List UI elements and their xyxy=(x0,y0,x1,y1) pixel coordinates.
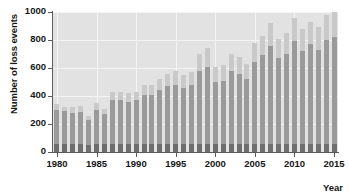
bar-segment-middle xyxy=(300,51,305,143)
bar xyxy=(165,74,170,152)
bar-segment-middle xyxy=(332,37,337,143)
x-tick-label: 2000 xyxy=(195,158,235,169)
y-tick-mark xyxy=(48,12,52,13)
bar xyxy=(197,54,202,152)
bar-segment-middle xyxy=(78,112,83,144)
bar-segment-upper xyxy=(244,64,249,79)
bar-segment-base xyxy=(70,144,75,152)
x-tick-label: 2015 xyxy=(314,158,349,169)
y-tick-label: 800 xyxy=(8,33,46,44)
y-tick-label: 600 xyxy=(8,61,46,72)
bar-segment-upper xyxy=(197,54,202,71)
bar-segment-base xyxy=(110,144,115,152)
bar-segment-base xyxy=(324,144,329,152)
bar-segment-base xyxy=(118,144,123,152)
bar xyxy=(78,106,83,152)
y-tick-mark xyxy=(48,68,52,69)
bar-series xyxy=(53,12,338,152)
y-axis-line xyxy=(52,11,53,153)
bar xyxy=(70,107,75,152)
x-tick-mark xyxy=(334,153,335,157)
bar-segment-middle xyxy=(149,95,154,144)
bar-segment-upper xyxy=(110,92,115,100)
bar-segment-base xyxy=(260,144,265,152)
x-tick-mark xyxy=(294,153,295,157)
bar-segment-base xyxy=(276,144,281,152)
x-tick-mark xyxy=(255,153,256,157)
loss-events-bar-chart: Number of loss events Year 0200400600800… xyxy=(0,0,349,195)
bar xyxy=(181,75,186,152)
y-tick-mark xyxy=(48,152,52,153)
bar-segment-middle xyxy=(292,41,297,143)
bar-segment-middle xyxy=(324,40,329,144)
bar xyxy=(237,57,242,152)
bar-segment-upper xyxy=(229,54,234,71)
bar-segment-upper xyxy=(292,18,297,42)
bar-segment-middle xyxy=(197,71,202,144)
bar-segment-base xyxy=(244,144,249,152)
bar-segment-upper xyxy=(276,39,281,59)
bar-segment-middle xyxy=(189,85,194,144)
bar-segment-upper xyxy=(126,93,131,101)
x-tick-mark xyxy=(97,153,98,157)
bar-segment-middle xyxy=(221,81,226,144)
x-tick-label: 2010 xyxy=(274,158,314,169)
bar-segment-upper xyxy=(165,74,170,87)
bar-segment-middle xyxy=(229,71,234,144)
bar-segment-base xyxy=(197,144,202,152)
bar-segment-base xyxy=(102,144,107,152)
bar-segment-base xyxy=(252,144,257,152)
bar-segment-middle xyxy=(316,50,321,144)
bar-segment-middle xyxy=(94,110,99,144)
bar xyxy=(221,65,226,152)
bar-segment-middle xyxy=(70,113,75,145)
bar-segment-base xyxy=(316,144,321,152)
bar xyxy=(292,18,297,152)
bar-segment-upper xyxy=(173,71,178,85)
bar-segment-middle xyxy=(134,100,139,143)
bar-segment-middle xyxy=(308,44,313,143)
bar xyxy=(110,92,115,152)
bar-segment-base xyxy=(332,144,337,152)
bar-segment-base xyxy=(221,144,226,152)
bar-segment-upper xyxy=(252,43,257,63)
bar-segment-base xyxy=(205,144,210,152)
bar-segment-middle xyxy=(213,82,218,144)
bar-segment-upper xyxy=(260,36,265,56)
bar-segment-base xyxy=(62,144,67,152)
bar xyxy=(260,36,265,152)
bar-segment-middle xyxy=(157,90,162,143)
bar-segment-middle xyxy=(173,85,178,144)
bar-segment-upper xyxy=(181,75,186,88)
bar-segment-upper xyxy=(332,12,337,37)
y-tick-label: 200 xyxy=(8,117,46,128)
bar-segment-middle xyxy=(284,54,289,144)
x-tick-mark xyxy=(136,153,137,157)
bar xyxy=(252,43,257,152)
x-tick-label: 1985 xyxy=(77,158,117,169)
bar xyxy=(142,85,147,152)
bar xyxy=(126,93,131,152)
bar-segment-base xyxy=(165,144,170,152)
bar xyxy=(62,107,67,152)
x-tick-mark xyxy=(215,153,216,157)
bar-segment-base xyxy=(126,144,131,152)
bar xyxy=(157,79,162,152)
bar-segment-base xyxy=(229,144,234,152)
bar-segment-middle xyxy=(110,100,115,143)
bar xyxy=(229,54,234,152)
bar-segment-base xyxy=(300,144,305,152)
x-tick-mark xyxy=(57,153,58,157)
bar xyxy=(284,33,289,152)
x-axis-title: Year xyxy=(323,182,343,193)
bar xyxy=(213,67,218,152)
bar-segment-upper xyxy=(268,23,273,45)
bar-segment-middle xyxy=(268,46,273,144)
bar xyxy=(324,15,329,152)
bar xyxy=(316,27,321,152)
bar-segment-base xyxy=(284,144,289,152)
bar-segment-base xyxy=(54,144,59,152)
bar xyxy=(118,92,123,152)
bar-segment-middle xyxy=(205,67,210,144)
bar-segment-middle xyxy=(237,74,242,144)
